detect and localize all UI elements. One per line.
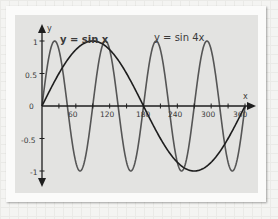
x-axis-arrow-icon — [247, 102, 256, 110]
x-tick-label-360: 360 — [233, 110, 248, 119]
sin-4x-annotation: y = sin 4x — [154, 32, 205, 43]
sin-x-annotation: y = sin x — [60, 34, 109, 45]
y-axis-label: y — [47, 24, 52, 33]
x-axis-label: x — [243, 92, 248, 101]
x-tick-label-60: 60 — [68, 110, 78, 119]
sine-chart: x y 0 1 0.5 -0.5 -1 60 120 180 240 300 3… — [0, 0, 278, 219]
x-axis: x — [42, 92, 256, 110]
x-tick-label-120: 120 — [100, 110, 115, 119]
y-tick-label-1: 1 — [33, 38, 38, 47]
y-axis-down-arrow-icon — [38, 178, 46, 187]
y-axis-up-arrow-icon — [38, 24, 46, 33]
y-tick-label-neg-1: -1 — [30, 168, 38, 177]
origin-label: 0 — [29, 102, 34, 111]
x-tick-label-180: 180 — [136, 110, 151, 119]
x-tick-label-240: 240 — [168, 110, 183, 119]
x-tick-label-300: 300 — [201, 110, 216, 119]
y-tick-label-0.5: 0.5 — [25, 71, 37, 80]
y-tick-label-neg-0.5: -0.5 — [21, 136, 36, 145]
